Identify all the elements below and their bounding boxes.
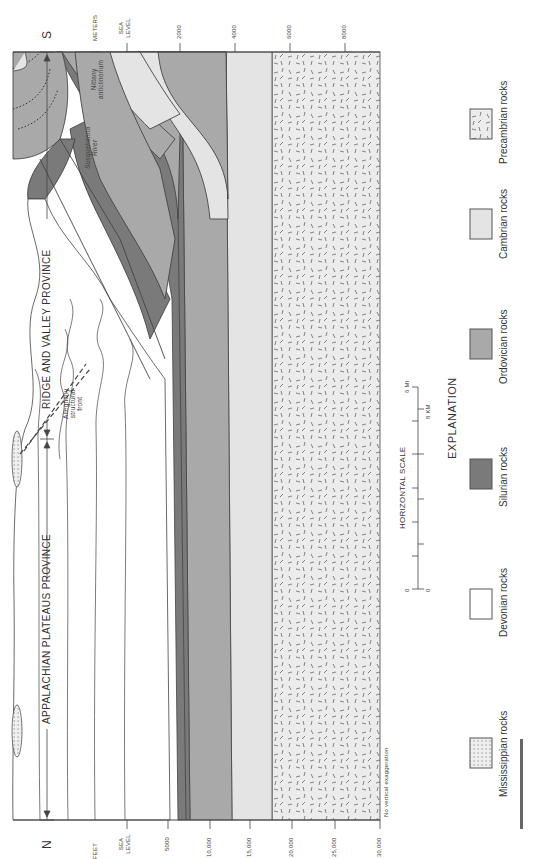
legend-swatch-mississippian xyxy=(470,738,492,768)
nittany-anticlinorium-label: Nittany anticlinorium xyxy=(90,60,104,99)
precambrian-layer xyxy=(272,52,380,820)
legend-swatch-cambrian xyxy=(470,209,492,239)
meters-axis-ticks xyxy=(127,43,345,52)
meters-tick-8000: 8000 xyxy=(341,25,347,39)
legend-swatch-silurian xyxy=(470,459,492,489)
feet-tick-5000: 5000 xyxy=(164,837,170,851)
scale-km-end: 8 KM xyxy=(425,404,431,419)
legend-swatch-ordovician xyxy=(470,329,492,359)
mississippian-outlier-north xyxy=(12,705,22,757)
feet-tick-25000: 25,000 xyxy=(331,837,337,857)
south-label: S xyxy=(40,31,54,39)
legend-label-devonian: Devonian rocks xyxy=(498,568,509,637)
scale-km-zero: 0 xyxy=(425,588,431,592)
legend-label-ordovician: Ordovician rocks xyxy=(498,310,509,384)
appalachian-plateaus-province-label: APPALACHIAN PLATEAUS PROVINCE xyxy=(41,534,52,724)
legend-label-mississippian: Mississippian rocks xyxy=(498,711,509,797)
cambrian-layer xyxy=(226,52,272,820)
legend-label-silurian: Silurian rocks xyxy=(498,447,509,507)
feet-sea-level-label: SEA LEVEL xyxy=(118,831,132,857)
meters-sea-level-label: SEA LEVEL xyxy=(118,15,132,41)
legend-title: EXPLANATION xyxy=(446,377,458,459)
legend-label-precambrian: Precambrian rocks xyxy=(498,81,509,164)
feet-tick-30000: 30,000 xyxy=(376,837,382,857)
no-vertical-exaggeration-note: No vertical exaggeration xyxy=(383,747,389,817)
meters-tick-6000: 6000 xyxy=(286,25,292,39)
ridge-and-valley-province-label: RIDGE AND VALLEY PROVINCE xyxy=(41,249,52,409)
north-label: N xyxy=(40,840,54,849)
meters-tick-2000: 2000 xyxy=(176,25,182,39)
feet-tick-20000: 20,000 xyxy=(288,837,294,857)
scale-mi-end: 6 MI xyxy=(404,381,410,393)
rotated-figure: N S APPALACHIAN PLATEAUS PROVINCE RIDGE … xyxy=(0,0,538,859)
horizontal-scale-title: HORIZONTAL SCALE xyxy=(398,447,407,529)
feet-tick-15000: 15,000 xyxy=(246,837,252,857)
legend-swatch-precambrian xyxy=(470,109,492,139)
horizontal-scale-bar xyxy=(412,387,424,589)
page-edge-bar xyxy=(520,739,523,829)
scale-mi-zero: 0 xyxy=(404,588,410,592)
mississippian-outlier-allegheny xyxy=(12,431,22,487)
feet-tick-10000: 10,000 xyxy=(206,837,212,857)
meters-unit-label: METERS xyxy=(92,15,98,41)
legend-label-cambrian: Cambrian rocks xyxy=(498,189,509,259)
allegheny-structural-front-label: Allegheny structural front xyxy=(62,389,83,419)
susquehanna-river-label: Susquehanna River xyxy=(84,127,98,169)
feet-unit-label: FEET xyxy=(92,843,98,859)
feet-axis-ticks xyxy=(127,820,380,829)
meters-tick-4000: 4000 xyxy=(231,25,237,39)
legend-swatch-devonian xyxy=(470,589,492,619)
